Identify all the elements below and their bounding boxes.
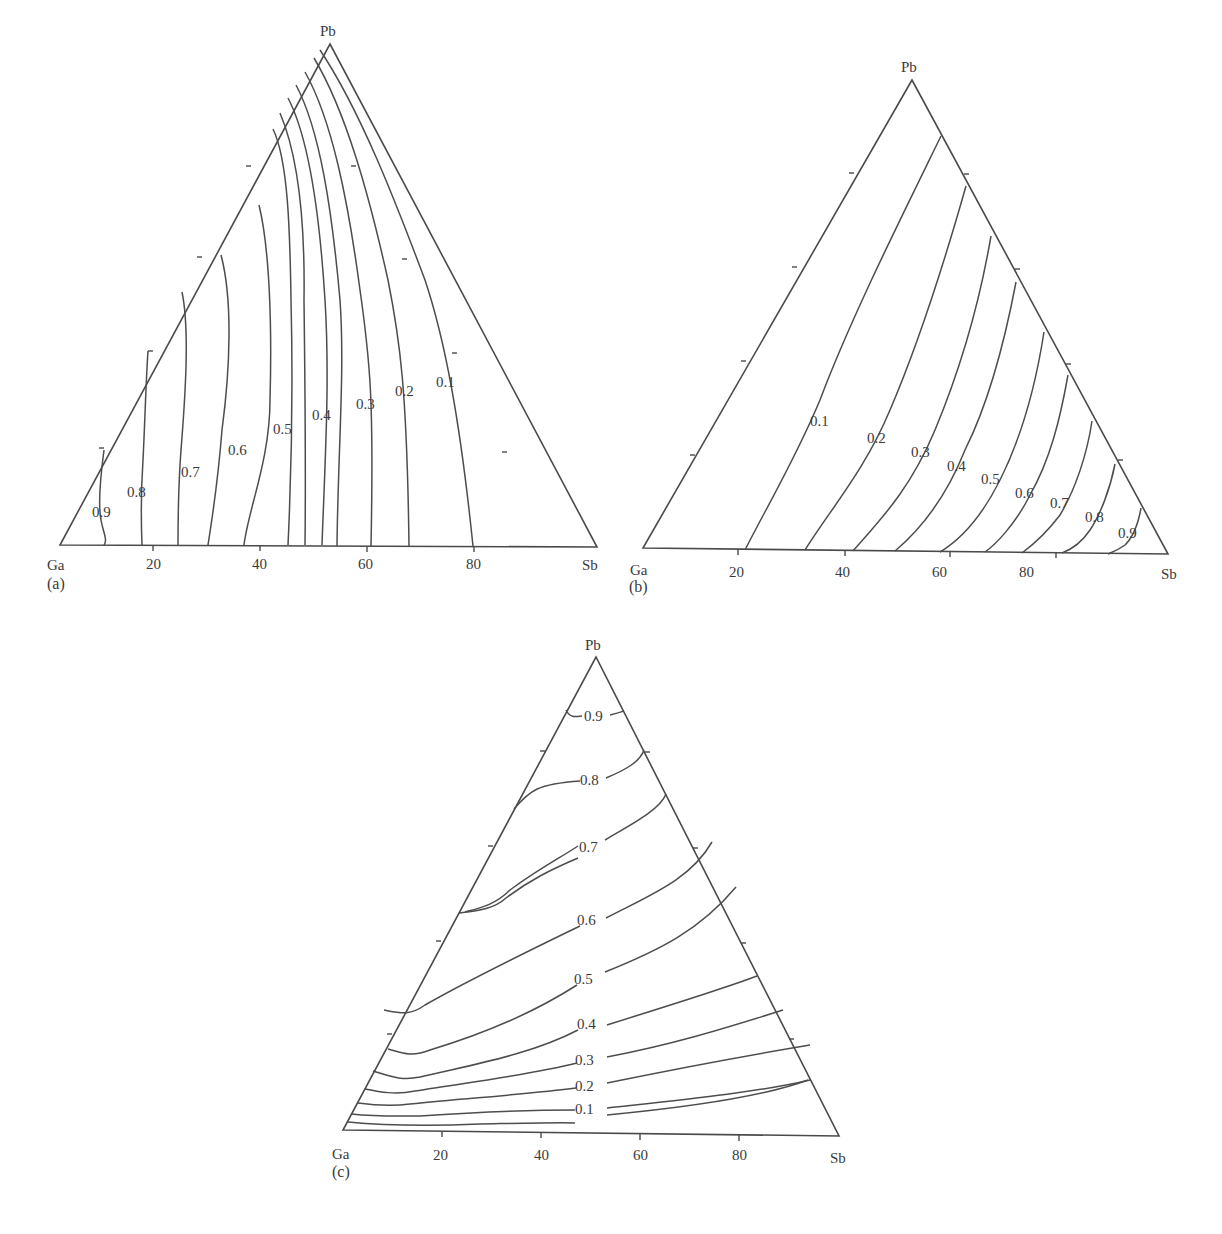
contour-label: 0.9 [92, 504, 111, 520]
vertex-label-ga: Ga [332, 1146, 350, 1162]
contour-label: 0.6 [228, 442, 247, 458]
contour-label: 0.6 [1015, 485, 1034, 501]
contour-label: 0.3 [575, 1052, 594, 1068]
contour-label: 0.1 [810, 413, 829, 429]
vertex-label-ga: Ga [47, 557, 65, 573]
contour-label: 0.1 [436, 374, 455, 390]
tick-label: 60 [932, 564, 947, 580]
vertex-label-pb: Pb [320, 23, 336, 39]
contour-label: 0.9 [1118, 525, 1137, 541]
contour-label: 0.4 [947, 458, 966, 474]
panel-a-triangle [60, 44, 597, 547]
panel-c: 0.9 0.8 0.7 0.6 0.5 0.4 0.3 0.2 0.1 Pb G… [332, 637, 846, 1181]
contour-label: 0.3 [911, 444, 930, 460]
panel-label: (c) [332, 1163, 350, 1181]
contour-label: 0.8 [1085, 509, 1104, 525]
contour-label: 0.1 [575, 1101, 594, 1117]
tick-label: 80 [732, 1147, 747, 1163]
contour-label: 0.5 [273, 421, 292, 437]
contour-label: 0.9 [584, 708, 603, 724]
panel-label: (b) [629, 578, 648, 596]
contour-label: 0.2 [575, 1078, 594, 1094]
contour-label: 0.2 [395, 383, 414, 399]
contour-label: 0.5 [574, 971, 593, 987]
tick-label: 80 [1019, 564, 1034, 580]
panel-a: 0.9 0.8 0.7 0.6 0.5 0.4 0.3 0.2 0.1 Pb G… [47, 23, 598, 593]
contour-label: 0.7 [181, 464, 200, 480]
contour-label: 0.2 [867, 430, 886, 446]
contour-label: 0.4 [577, 1016, 596, 1032]
contour-label: 0.8 [580, 772, 599, 788]
contour-label: 0.7 [1050, 495, 1069, 511]
contour-label: 0.5 [981, 471, 1000, 487]
contour-label: 0.4 [312, 407, 331, 423]
panel-b-contours [745, 136, 1141, 554]
panel-c-contour-labels: 0.9 0.8 0.7 0.6 0.5 0.4 0.3 0.2 0.1 [574, 708, 603, 1117]
contour-label: 0.6 [577, 912, 596, 928]
panel-label: (a) [47, 575, 65, 593]
vertex-label-sb: Sb [830, 1150, 846, 1166]
tick-label: 60 [633, 1147, 648, 1163]
tick-label: 40 [252, 556, 267, 572]
panel-b-triangle [643, 80, 1168, 554]
vertex-label-sb: Sb [1161, 566, 1177, 582]
tick-label: 80 [466, 556, 481, 572]
vertex-label-pb: Pb [901, 59, 917, 75]
ternary-figure: 0.9 0.8 0.7 0.6 0.5 0.4 0.3 0.2 0.1 Pb G… [0, 0, 1222, 1234]
panel-b: 0.1 0.2 0.3 0.4 0.5 0.6 0.7 0.8 0.9 Pb G… [629, 59, 1177, 596]
contour-label: 0.8 [127, 484, 146, 500]
tick-label: 20 [146, 556, 161, 572]
vertex-label-ga: Ga [630, 562, 648, 578]
vertex-label-pb: Pb [585, 637, 601, 653]
tick-label: 60 [358, 556, 373, 572]
tick-label: 40 [835, 564, 850, 580]
contour-label: 0.7 [579, 839, 598, 855]
tick-label: 40 [534, 1147, 549, 1163]
contour-label: 0.3 [356, 396, 375, 412]
tick-label: 20 [729, 564, 744, 580]
vertex-label-sb: Sb [582, 557, 598, 573]
tick-label: 20 [433, 1147, 448, 1163]
